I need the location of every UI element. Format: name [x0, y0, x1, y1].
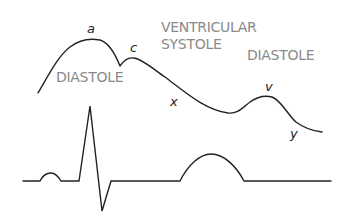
x-descent-label: x	[170, 95, 178, 109]
a-wave-label: a	[87, 22, 95, 36]
ventricular-label: VENTRICULAR	[161, 19, 256, 35]
diastole-label-left: DIASTOLE	[56, 69, 123, 85]
y-descent-label: y	[290, 127, 298, 141]
ecg-trace	[23, 106, 331, 211]
jvp-ecg-diagram: DIASTOLE VENTRICULAR SYSTOLE DIASTOLE a …	[0, 0, 348, 219]
c-wave-label: c	[130, 41, 137, 55]
systole-label: SYSTOLE	[161, 36, 221, 52]
diastole-label-right: DIASTOLE	[247, 47, 314, 63]
v-wave-label: v	[265, 80, 273, 94]
